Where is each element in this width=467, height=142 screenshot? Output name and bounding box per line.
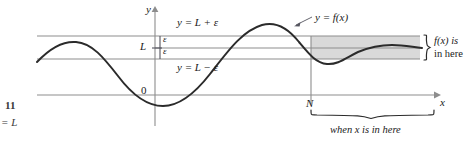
lower-bound-label: y = L − ε [177, 62, 218, 74]
margin-caption-line1: 11 [5, 99, 15, 111]
epsilon-upper-label: ε [163, 35, 167, 44]
limit-value-label: L [140, 41, 146, 53]
n-label: N [306, 98, 313, 110]
x-axis-label: x [440, 97, 445, 109]
margin-caption-line2: = L [1, 116, 17, 128]
y-axis-arrowhead [152, 6, 159, 12]
right-brace-label-line1: f(x) is [434, 35, 458, 46]
y-axis-label: y [146, 4, 151, 16]
epsilon-lower-label: ε [163, 47, 167, 56]
curve-label-arrowhead [294, 22, 301, 26]
bottom-brace [311, 110, 434, 119]
curve-label: y = f(x) [315, 12, 348, 24]
right-brace [424, 35, 430, 60]
limit-at-infinity-figure: y x 0 L N y = L + ε y = L − ε ε ε y = f(… [0, 0, 467, 142]
bottom-brace-label: when x is in here [330, 124, 401, 135]
right-brace-label-line2: in here [434, 48, 463, 59]
upper-bound-label: y = L + ε [177, 17, 218, 29]
origin-label: 0 [141, 85, 147, 97]
figure-canvas [0, 0, 467, 142]
